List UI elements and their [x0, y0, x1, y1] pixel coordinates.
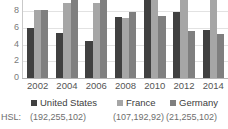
y-tick-label: 4: [3, 40, 19, 49]
plot-area: 02468: [0, 0, 228, 80]
legend-swatch-icon: [170, 100, 176, 106]
chart-legend: United StatesFranceGermany: [0, 96, 228, 110]
bar: [34, 10, 41, 78]
y-tick-label: 8: [3, 6, 19, 15]
bar: [203, 30, 210, 78]
bar: [217, 34, 224, 78]
legend-swatch-icon: [117, 100, 123, 106]
x-tick-label: 2010: [140, 80, 169, 92]
y-tick-label: 2: [3, 56, 19, 65]
x-tick-label: 2012: [169, 80, 198, 92]
bar: [122, 18, 129, 78]
y-tick-label: 6: [3, 23, 19, 32]
bar: [100, 0, 107, 78]
bar: [144, 0, 151, 78]
bar-group: [23, 0, 52, 78]
x-axis-line: [22, 78, 228, 79]
bar: [93, 3, 100, 78]
bar-group: [52, 0, 81, 78]
x-tick-label: 2002: [23, 80, 52, 92]
bar-group: [140, 0, 169, 78]
bar: [188, 31, 195, 78]
bar: [63, 3, 70, 78]
bar-chart: 02468 2002200420062008201020122014 Unite…: [0, 0, 228, 129]
hsl-row: HSL: (192,255,102)(107,192,92)(21,255,10…: [0, 111, 228, 125]
bar: [56, 33, 63, 78]
legend-label: United States: [40, 98, 97, 108]
x-tick-label: 2014: [199, 80, 228, 92]
bar: [129, 12, 136, 78]
bar-group: [111, 0, 140, 78]
bar: [85, 41, 92, 78]
bar: [115, 17, 122, 78]
y-tick-label: 0: [3, 73, 19, 80]
x-tick-label: 2004: [52, 80, 81, 92]
legend-label: France: [126, 98, 156, 108]
x-tick-label: 2006: [82, 80, 111, 92]
y-axis: 02468: [0, 0, 19, 80]
bar-group: [169, 0, 198, 78]
hsl-value: (21,255,102): [166, 111, 217, 123]
bar: [158, 16, 165, 78]
hsl-value: (192,255,102): [30, 111, 86, 123]
x-axis: 2002200420062008201020122014: [23, 80, 228, 94]
legend-swatch-icon: [31, 100, 37, 106]
hsl-value: (107,192,92): [113, 111, 164, 123]
bar-group: [82, 0, 111, 78]
bar: [41, 10, 48, 78]
bar: [173, 12, 180, 78]
legend-item[interactable]: Germany: [170, 96, 218, 109]
hsl-row-label: HSL:: [1, 111, 21, 123]
bar: [71, 0, 78, 78]
bars-layer: [23, 0, 228, 78]
bar: [27, 28, 34, 78]
legend-item[interactable]: United States: [31, 96, 97, 109]
bar: [180, 0, 187, 78]
bar: [210, 0, 217, 78]
x-tick-label: 2008: [111, 80, 140, 92]
bar-group: [199, 0, 228, 78]
legend-label: Germany: [179, 98, 218, 108]
bar: [151, 0, 158, 78]
legend-item[interactable]: France: [117, 96, 156, 109]
